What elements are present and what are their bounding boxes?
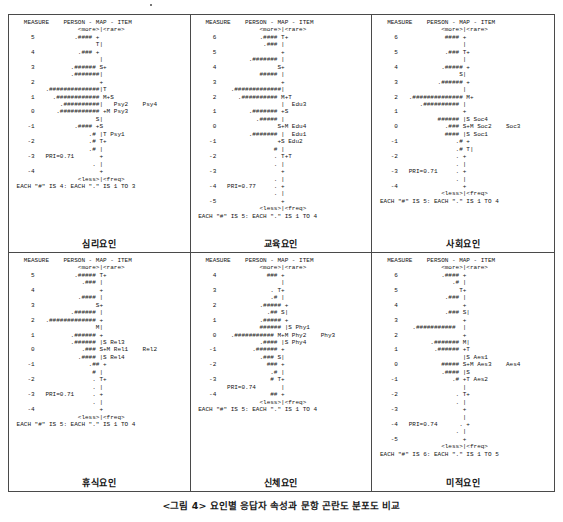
- scan-artifact-dot: [150, 4, 152, 6]
- figure-caption: <그림 4> 요인별 응답자 속성과 문항 곤란도 분포도 비교: [0, 498, 563, 512]
- wright-map-figure: MEASURE PERSON - MAP - ITEM <more>|<rare…: [0, 0, 563, 522]
- panel-psychological: MEASURE PERSON - MAP - ITEM <more>|<rare…: [9, 15, 191, 253]
- wright-map-text: MEASURE PERSON - MAP - ITEM <more>|<rare…: [9, 253, 190, 428]
- panel-caption: 미적요인: [372, 476, 554, 489]
- panel-rest: MEASURE PERSON - MAP - ITEM <more>|<rare…: [9, 253, 191, 491]
- panel-caption: 교육요인: [191, 237, 372, 250]
- panel-caption: 신체요인: [191, 476, 372, 489]
- panel-caption: 심리요인: [9, 237, 190, 250]
- wright-map-text: MEASURE PERSON - MAP - ITEM <more>|<rare…: [9, 15, 190, 190]
- panel-caption: 사회요인: [372, 237, 554, 250]
- wright-map-text: MEASURE PERSON - MAP - ITEM <more>|<rare…: [191, 253, 372, 414]
- panel-physical: MEASURE PERSON - MAP - ITEM <more>|<rare…: [191, 253, 373, 491]
- wright-map-text: MEASURE PERSON - MAP - ITEM <more>|<rare…: [191, 15, 372, 220]
- panel-social: MEASURE PERSON - MAP - ITEM <more>|<rare…: [372, 15, 554, 253]
- panel-grid: MEASURE PERSON - MAP - ITEM <more>|<rare…: [8, 14, 555, 492]
- panel-education: MEASURE PERSON - MAP - ITEM <more>|<rare…: [191, 15, 373, 253]
- panel-caption: 휴식요인: [9, 476, 190, 489]
- panel-aesthetic: MEASURE PERSON - MAP - ITEM <more>|<rare…: [372, 253, 554, 491]
- wright-map-text: MEASURE PERSON - MAP - ITEM <more>|<rare…: [372, 15, 554, 205]
- wright-map-text: MEASURE PERSON - MAP - ITEM <more>|<rare…: [372, 253, 554, 458]
